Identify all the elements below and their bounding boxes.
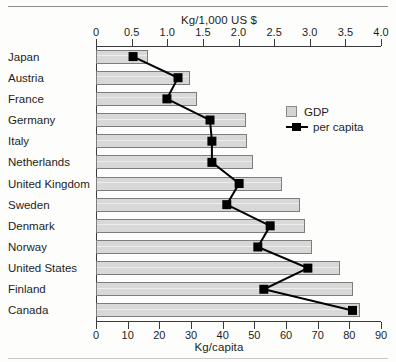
bottom-axis-line [96, 321, 381, 322]
top-tick-1 [132, 39, 133, 46]
bar-norway [96, 240, 312, 254]
bar-canada [96, 303, 360, 317]
bottom-tick-3 [191, 322, 192, 329]
top-tick-5 [274, 39, 275, 46]
category-label-japan: Japan [8, 51, 39, 63]
top-tick-3 [203, 39, 204, 46]
bar-sweden [96, 198, 300, 212]
top-tick-8 [381, 39, 382, 46]
bar-finland [96, 282, 353, 296]
top-tick-label-5: 2.5 [266, 26, 281, 38]
bar-netherlands [96, 155, 253, 169]
top-tick-label-7: 3.5 [338, 26, 353, 38]
bottom-tick-0 [96, 322, 97, 329]
bottom-tick-label-1: 10 [122, 329, 134, 341]
legend-item-gdp: GDP [286, 104, 364, 119]
category-label-norway: Norway [8, 241, 47, 253]
top-tick-2 [167, 39, 168, 46]
bar-germany [96, 113, 246, 127]
category-label-united-kingdom: United Kingdom [8, 178, 90, 190]
bar-japan [96, 50, 148, 64]
category-label-finland: Finland [8, 283, 46, 295]
bottom-tick-6 [286, 322, 287, 329]
top-tick-label-8: 4.0 [373, 26, 388, 38]
top-tick-6 [310, 39, 311, 46]
bottom-tick-label-0: 0 [93, 329, 99, 341]
bar-denmark [96, 219, 305, 233]
bottom-tick-1 [128, 322, 129, 329]
legend-item-per-capita: per capita [286, 119, 364, 134]
chart-legend: GDP per capita [286, 104, 364, 134]
bottom-tick-label-2: 20 [153, 329, 165, 341]
category-label-austria: Austria [8, 72, 44, 84]
bottom-tick-label-4: 40 [217, 329, 229, 341]
gdp-swatch-icon [286, 106, 297, 117]
category-label-sweden: Sweden [8, 199, 50, 211]
top-tick-label-2: 1.0 [160, 26, 175, 38]
bottom-tick-2 [159, 322, 160, 329]
bottom-tick-9 [381, 322, 382, 329]
top-tick-label-4: 2.0 [231, 26, 246, 38]
category-label-united-states: United States [8, 262, 77, 274]
top-axis-line [96, 46, 381, 47]
bottom-tick-5 [254, 322, 255, 329]
top-tick-4 [239, 39, 240, 46]
legend-label-gdp: GDP [304, 106, 329, 118]
category-label-canada: Canada [8, 304, 48, 316]
legend-label-per-capita: per capita [313, 121, 364, 133]
bar-united-states [96, 261, 340, 275]
top-tick-label-0: 0 [93, 26, 99, 38]
top-tick-label-3: 1.5 [195, 26, 210, 38]
plot-area [96, 48, 381, 320]
top-tick-label-1: 0.5 [124, 26, 139, 38]
bottom-tick-label-7: 70 [312, 329, 324, 341]
category-label-denmark: Denmark [8, 220, 55, 232]
bottom-tick-label-6: 60 [280, 329, 292, 341]
bar-france [96, 92, 197, 106]
bar-italy [96, 134, 247, 148]
bottom-tick-7 [318, 322, 319, 329]
bar-austria [96, 71, 190, 85]
bar-united-kingdom [96, 177, 282, 191]
category-label-netherlands: Netherlands [8, 156, 70, 168]
category-labels: JapanAustriaFranceGermanyItalyNetherland… [0, 0, 92, 362]
bottom-tick-label-5: 50 [248, 329, 260, 341]
bottom-tick-label-9: 90 [375, 329, 387, 341]
bottom-tick-label-3: 30 [185, 329, 197, 341]
top-tick-7 [345, 39, 346, 46]
per-capita-marker-icon [286, 121, 308, 132]
top-tick-0 [96, 39, 97, 46]
category-label-france: France [8, 93, 44, 105]
bottom-tick-label-8: 80 [343, 329, 355, 341]
bottom-tick-8 [349, 322, 350, 329]
category-label-germany: Germany [8, 114, 55, 126]
chart-figure: Kg/1,000 US $ Kg/capita 00.51.01.52.02.5… [0, 0, 396, 362]
category-label-italy: Italy [8, 135, 29, 147]
top-tick-label-6: 3.0 [302, 26, 317, 38]
bottom-tick-4 [223, 322, 224, 329]
